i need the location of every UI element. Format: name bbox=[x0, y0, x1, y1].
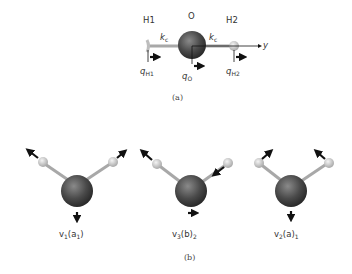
label-mode-v3: v3(b)2 bbox=[172, 230, 197, 240]
mode-v1 bbox=[29, 151, 124, 219]
label-q-h2: qH2 bbox=[226, 67, 240, 77]
label-mode-v2: v2(a)1 bbox=[274, 230, 299, 240]
y-axis-arrow-icon bbox=[258, 44, 262, 48]
arrow-icon bbox=[262, 152, 270, 159]
mode-v2 bbox=[254, 152, 334, 218]
label-h1: H1 bbox=[143, 16, 155, 25]
arrow-icon bbox=[29, 151, 38, 158]
arrow-icon bbox=[317, 152, 325, 159]
label-kc-left: kc bbox=[160, 33, 168, 43]
caption-a: (a) bbox=[172, 93, 183, 102]
label-h2: H2 bbox=[226, 16, 238, 25]
label-q-h1: qH1 bbox=[140, 67, 154, 77]
label-q-o: qO bbox=[182, 72, 192, 82]
arrow-icon bbox=[143, 152, 152, 160]
caption-b: (b) bbox=[184, 253, 195, 262]
mode-v3 bbox=[143, 152, 233, 213]
label-o: O bbox=[188, 12, 195, 21]
arrow-icon bbox=[117, 152, 124, 158]
label-mode-v1: v1(a1) bbox=[59, 230, 84, 240]
label-y-axis: y bbox=[263, 41, 268, 50]
label-kc-right: kc bbox=[209, 33, 217, 43]
